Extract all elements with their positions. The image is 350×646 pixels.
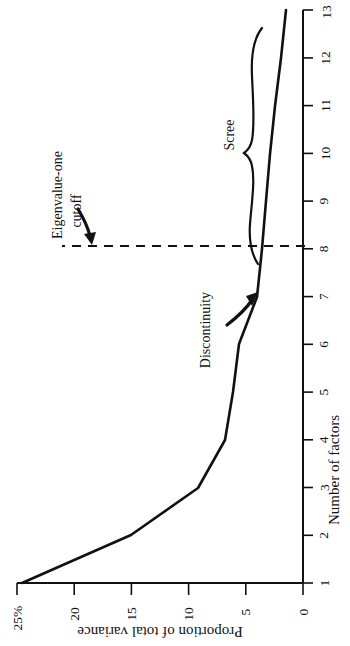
x-tick-label-9: 9 xyxy=(317,197,332,204)
x-tick-label-8: 8 xyxy=(317,245,332,252)
eigenvalue-cutoff-label-line2: cutoff xyxy=(69,194,84,228)
x-axis-title: Number of factors xyxy=(326,415,342,525)
x-tick-label-6: 6 xyxy=(317,341,332,348)
x-axis: 1 2 3 4 5 6 7 8 9 10 11 12 13 Number of … xyxy=(303,5,342,586)
x-tick-label-2: 2 xyxy=(317,532,332,539)
y-tick-label-10: 10 xyxy=(181,607,196,621)
y-axis: 0 5 10 15 20 25% Proportion of total var… xyxy=(10,583,311,640)
eigenvalue-cutoff-arrowhead xyxy=(84,232,96,245)
y-tick-label-0: 0 xyxy=(296,608,311,615)
chart-canvas: 1 2 3 4 5 6 7 8 9 10 11 12 13 Number of … xyxy=(0,0,350,646)
y-axis-title: Proportion of total variance xyxy=(77,624,243,640)
x-tick-label-11: 11 xyxy=(319,99,334,112)
x-tick-label-12: 12 xyxy=(319,51,334,65)
eigenvalue-cutoff-label-line1: Eigenvalue-one xyxy=(50,151,65,239)
x-tick-label-1: 1 xyxy=(317,580,332,587)
y-tick-label-15: 15 xyxy=(124,607,139,621)
scree-label: Scree xyxy=(222,119,237,150)
y-tick-label-5: 5 xyxy=(238,608,253,615)
scree-brace xyxy=(244,28,262,264)
discontinuity-label: Discontinuity xyxy=(198,292,213,368)
x-tick-label-5: 5 xyxy=(317,388,332,395)
x-tick-label-13: 13 xyxy=(319,5,334,19)
x-tick-label-7: 7 xyxy=(317,293,332,300)
y-tick-label-20: 20 xyxy=(67,607,82,621)
scree-plot-figure: 1 2 3 4 5 6 7 8 9 10 11 12 13 Number of … xyxy=(0,0,350,646)
x-tick-label-10: 10 xyxy=(319,146,334,160)
y-tick-label-25: 25% xyxy=(10,606,25,631)
